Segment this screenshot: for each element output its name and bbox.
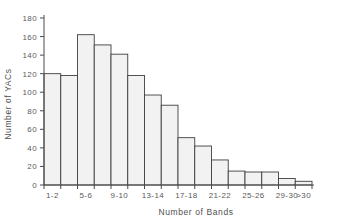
y-tick-label: 160 (22, 33, 37, 42)
x-axis-ticks: 1-25-69-1013-1417-1821-2225-2629-30>30 (44, 185, 312, 200)
histogram-bar (128, 76, 145, 185)
y-tick-label: 60 (27, 125, 37, 134)
histogram-bar (161, 105, 178, 185)
histogram-bar (78, 35, 95, 185)
y-tick-label: 180 (22, 14, 37, 23)
x-tick-label: 25-26 (242, 191, 265, 200)
histogram-bar (262, 172, 279, 185)
y-tick-label: 120 (22, 70, 37, 79)
histogram-bar (111, 54, 128, 185)
x-tick-label: 5-6 (79, 191, 92, 200)
histogram-bar (44, 74, 61, 185)
histogram-bar (145, 95, 162, 185)
histogram-bar (245, 172, 262, 185)
histogram-bar (178, 138, 195, 185)
histogram-bar (212, 160, 229, 185)
chart-canvas: 020406080100120140160180 1-25-69-1013-14… (0, 0, 358, 224)
y-tick-label: 40 (27, 144, 37, 153)
x-tick-label: 1-2 (46, 191, 59, 200)
y-tick-label: 140 (22, 51, 37, 60)
x-tick-label: 21-22 (209, 191, 232, 200)
x-axis-title: Number of Bands (158, 207, 233, 217)
x-tick-label: 9-10 (111, 191, 129, 200)
y-tick-label: 20 (27, 162, 37, 171)
histogram-bar (94, 45, 111, 185)
histogram-bar (228, 171, 245, 185)
histogram-bar (195, 146, 212, 185)
histogram-bar (61, 76, 78, 185)
y-tick-label: 80 (27, 107, 37, 116)
y-tick-label: 0 (32, 181, 37, 190)
bars-group (44, 35, 312, 185)
x-tick-label: 29-30 (276, 191, 299, 200)
histogram-bar (295, 181, 312, 185)
x-tick-label: 17-18 (175, 191, 198, 200)
y-axis-title: Number of YACs (3, 68, 13, 139)
y-axis-ticks: 020406080100120140160180 (22, 14, 44, 190)
histogram-chart: 020406080100120140160180 1-25-69-1013-14… (0, 0, 358, 224)
y-tick-label: 100 (22, 88, 37, 97)
x-tick-label: 13-14 (142, 191, 165, 200)
x-tick-label: >30 (296, 191, 311, 200)
histogram-bar (279, 179, 296, 185)
